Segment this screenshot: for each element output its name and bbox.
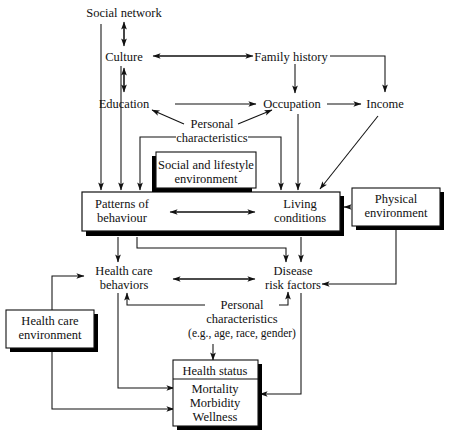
edge-personal-characteristics-education	[152, 110, 184, 124]
node-health-care-behaviors-line1: Health care	[95, 264, 153, 278]
node-health-status-wellness: Wellness	[193, 410, 238, 424]
node-living-conditions-line2: conditions	[274, 211, 326, 225]
node-health-status-header: Health status	[183, 364, 248, 378]
node-physical-environment-line2: environment	[364, 206, 428, 220]
edge-physical-environment-disease-risk	[322, 230, 396, 284]
edge-personal-characteristics-bottom-health-care	[127, 293, 205, 305]
node-personal-characteristics-bottom-line3: (e.g., age, race, gender)	[188, 327, 296, 340]
node-disease-risk-factors-line1: Disease	[274, 264, 313, 278]
node-social-network: Social network	[86, 6, 162, 20]
node-family-history: Family history	[254, 50, 328, 64]
edge-health-care-environment-behaviors	[52, 276, 84, 310]
node-social-lifestyle-line1: Social and lifestyle	[158, 158, 254, 172]
node-patterns-of-behaviour-line1: Patterns of	[95, 197, 150, 211]
edge-health-care-environment-health-status	[52, 352, 174, 409]
edge-family-history-income	[330, 56, 385, 92]
node-education: Education	[99, 97, 150, 111]
edge-patterns-disease-risk	[137, 237, 286, 262]
node-disease-risk-factors-line2: risk factors	[265, 278, 321, 292]
node-culture: Culture	[105, 50, 143, 64]
node-health-status-morbidity: Morbidity	[190, 396, 241, 410]
node-personal-characteristics-bottom-line2: characteristics	[206, 312, 278, 326]
edge-personal-characteristics-occupation	[238, 110, 272, 124]
node-health-care-behaviors-line2: behaviors	[100, 278, 149, 292]
node-health-status-mortality: Mortality	[191, 382, 239, 396]
diagram-canvas: Social network Culture Education Family …	[0, 0, 450, 440]
node-patterns-of-behaviour-line2: behaviour	[97, 211, 148, 225]
node-personal-characteristics-top-line2: characteristics	[176, 131, 248, 145]
node-living-conditions-line1: Living	[283, 197, 317, 211]
node-health-care-environment-line2: environment	[18, 328, 82, 342]
node-health-care-environment-line1: Health care	[21, 314, 79, 328]
edge-health-care-behaviors-health-status	[118, 293, 174, 388]
node-personal-characteristics-top-line1: Personal	[190, 117, 234, 131]
edge-income-living-conditions	[320, 116, 378, 189]
edge-disease-risk-health-status	[260, 293, 301, 394]
edge-personal-characteristics-bottom-disease-risk	[279, 292, 288, 305]
node-occupation: Occupation	[263, 97, 321, 111]
node-personal-characteristics-bottom-line1: Personal	[220, 298, 264, 312]
node-social-lifestyle-line2: environment	[174, 172, 238, 186]
node-income: Income	[366, 97, 404, 111]
health-determinants-diagram: Social network Culture Education Family …	[0, 0, 450, 440]
node-physical-environment-line1: Physical	[375, 192, 418, 206]
